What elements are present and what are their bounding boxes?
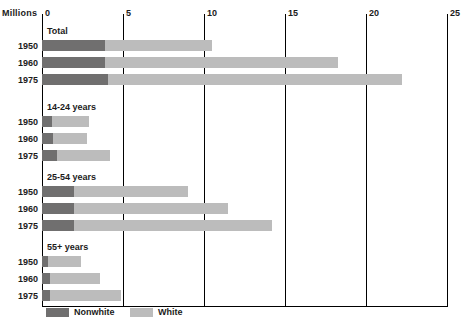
bar-white-2-1 <box>74 203 228 214</box>
legend-label-white: White <box>158 307 183 317</box>
bar-white-0-1 <box>105 57 338 68</box>
year-label-3-0: 1950 <box>8 257 38 267</box>
bar-white-3-1 <box>50 273 100 284</box>
bar-white-2-0 <box>74 186 187 197</box>
bar-nonwhite-3-1 <box>42 273 50 284</box>
group-title-0: Total <box>47 26 68 36</box>
year-label-2-2: 1975 <box>8 221 38 231</box>
legend-swatch-nonwhite <box>46 308 69 317</box>
bar-nonwhite-2-2 <box>42 220 74 231</box>
chart-canvas: Millions0510152025Total19501960197514-24… <box>0 0 467 322</box>
bar-white-0-2 <box>108 74 401 85</box>
bar-white-3-0 <box>48 256 80 267</box>
group-title-3: 55+ years <box>47 242 88 252</box>
legend-swatch-white <box>130 308 153 317</box>
axis-tick-5: 5 <box>126 8 131 18</box>
bar-nonwhite-1-1 <box>42 133 53 144</box>
axis-tick-0: 0 <box>45 8 50 18</box>
year-label-3-1: 1960 <box>8 274 38 284</box>
year-label-1-2: 1975 <box>8 151 38 161</box>
axis-tick-20: 20 <box>369 8 379 18</box>
year-label-0-0: 1950 <box>8 41 38 51</box>
axis-unit-label: Millions <box>2 8 37 18</box>
bar-nonwhite-0-1 <box>42 57 105 68</box>
year-label-2-1: 1960 <box>8 204 38 214</box>
axis-tick-25: 25 <box>450 8 460 18</box>
group-title-2: 25-54 years <box>47 172 96 182</box>
bar-nonwhite-0-2 <box>42 74 108 85</box>
year-label-1-1: 1960 <box>8 134 38 144</box>
bar-nonwhite-1-0 <box>42 116 52 127</box>
year-label-0-1: 1960 <box>8 58 38 68</box>
legend-label-nonwhite: Nonwhite <box>74 307 115 317</box>
bar-nonwhite-2-0 <box>42 186 74 197</box>
bar-nonwhite-3-2 <box>42 290 50 301</box>
bar-white-1-1 <box>53 133 87 144</box>
axis-tick-10: 10 <box>207 8 217 18</box>
bar-nonwhite-2-1 <box>42 203 74 214</box>
year-label-0-2: 1975 <box>8 75 38 85</box>
bar-white-1-0 <box>52 116 89 127</box>
bar-nonwhite-1-2 <box>42 150 57 161</box>
gridline-20 <box>366 14 367 306</box>
bar-white-1-2 <box>57 150 110 161</box>
group-title-1: 14-24 years <box>47 102 96 112</box>
year-label-3-2: 1975 <box>8 291 38 301</box>
bar-white-3-2 <box>50 290 121 301</box>
gridline-25 <box>447 14 448 306</box>
bar-white-0-0 <box>105 40 212 51</box>
axis-tick-15: 15 <box>288 8 298 18</box>
year-label-1-0: 1950 <box>8 117 38 127</box>
bar-nonwhite-0-0 <box>42 40 105 51</box>
bar-white-2-2 <box>74 220 272 231</box>
year-label-2-0: 1950 <box>8 187 38 197</box>
